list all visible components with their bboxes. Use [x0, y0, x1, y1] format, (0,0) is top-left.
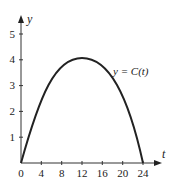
x-axis-arrow-icon [154, 160, 162, 166]
x-tick-label: 24 [138, 167, 150, 179]
x-tick-label: 0 [18, 167, 24, 179]
y-tick-label: 2 [10, 105, 16, 117]
x-tick-label: 8 [59, 167, 65, 179]
x-tick-label: 20 [117, 167, 129, 179]
y-tick-label: 3 [10, 79, 16, 91]
x-axis-label: t [162, 147, 166, 161]
chart: 0 4 8 12 16 20 24 1 2 3 4 5 y t y = C(t) [0, 0, 171, 186]
y-tick-label: 1 [10, 131, 16, 143]
y-tick-label: 4 [10, 53, 16, 65]
y-tick-label: 5 [10, 28, 16, 40]
curve-label: y = C(t) [112, 65, 149, 78]
y-axis-arrow-icon [18, 15, 24, 23]
x-tick-label: 16 [97, 167, 109, 179]
x-tick-label: 12 [77, 167, 88, 179]
x-tick-label: 4 [39, 167, 45, 179]
y-axis-label: y [26, 12, 33, 26]
